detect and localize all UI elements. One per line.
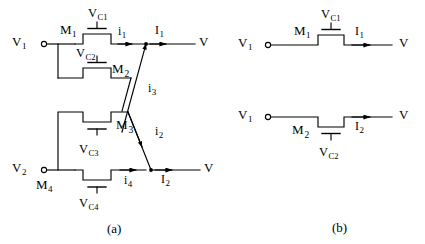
label-gate-voltage-vc2: VC2 xyxy=(76,47,95,60)
terminal-node-b-top-v1 xyxy=(265,42,270,47)
label-output-bottom-v: V xyxy=(204,161,213,174)
terminal-node-v1 xyxy=(41,41,46,46)
label-current-i2: i2 xyxy=(155,125,163,137)
label-b-gate-voltage-vc1: VC1 xyxy=(321,8,340,21)
label-b-top-output-v: V xyxy=(399,36,408,49)
wire-b-top-channel xyxy=(271,35,392,45)
label-gate-voltage-vc1: VC1 xyxy=(88,7,107,20)
terminal-node-v2 xyxy=(41,167,46,172)
label-b-gate-voltage-vc2: VC2 xyxy=(319,146,338,159)
label-device-m1: M1 xyxy=(60,23,76,36)
label-device-m4: M4 xyxy=(36,178,52,191)
caption-a: (a) xyxy=(107,222,121,235)
label-device-m2: M2 xyxy=(112,62,128,76)
label-gate-voltage-vc3: VC3 xyxy=(79,143,98,156)
label-v1-input: V1 xyxy=(12,35,26,48)
terminal-node-b-bottom-v1 xyxy=(265,114,270,119)
wire-b-bottom-channel xyxy=(271,117,392,127)
wire-m4-channel xyxy=(75,170,146,180)
label-b-bottom-v1: V1 xyxy=(238,108,252,121)
label-device-m3: M3 xyxy=(116,118,132,132)
label-b-device-m1: M1 xyxy=(294,24,310,37)
label-b-top-v1: V1 xyxy=(238,36,252,49)
circuit-figure: V1 V2 M1 VC1 M2 VC2 M3 VC3 M4 VC4 i1 I1 … xyxy=(0,0,425,244)
label-b-device-m2: M2 xyxy=(292,123,308,137)
label-output-top-v: V xyxy=(199,35,208,48)
label-current-i1: i1 xyxy=(118,25,126,37)
caption-b: (b) xyxy=(332,221,347,234)
label-b-current-I2: I2 xyxy=(355,120,364,132)
label-b-bottom-output-v: V xyxy=(399,108,408,121)
label-v2-input: V2 xyxy=(12,161,26,174)
label-current-I1: I1 xyxy=(155,24,164,36)
wire-m1-channel xyxy=(75,34,146,44)
label-b-current-I1: I1 xyxy=(355,25,364,37)
label-current-I2: I2 xyxy=(161,173,170,185)
label-current-i4: i4 xyxy=(124,174,132,186)
label-current-i3: i3 xyxy=(148,82,156,94)
label-gate-voltage-vc4: VC4 xyxy=(79,197,98,210)
